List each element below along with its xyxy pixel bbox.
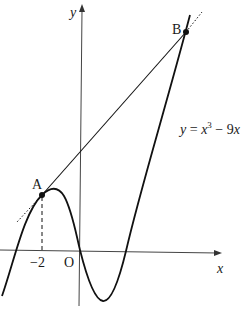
point-B xyxy=(183,29,189,35)
x-tick-label-minus-2: −2 xyxy=(30,255,45,270)
function-label: y = x3 − 9x xyxy=(178,120,241,137)
origin-label: O xyxy=(64,255,74,270)
cubic-graph-diagram: A B y x O −2 y = x3 − 9x xyxy=(0,0,248,314)
point-B-label: B xyxy=(172,22,181,37)
x-axis-label: x xyxy=(216,261,224,276)
y-axis-label: y xyxy=(68,5,77,20)
x-axis-arrow-icon xyxy=(214,250,222,256)
point-A-label: A xyxy=(32,177,43,192)
y-axis-arrow-icon xyxy=(79,4,85,12)
line-AB xyxy=(42,32,186,195)
point-A xyxy=(39,192,45,198)
